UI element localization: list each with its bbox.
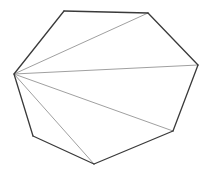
heptagon-diagram — [0, 0, 210, 174]
heptagon-fill — [14, 11, 198, 164]
